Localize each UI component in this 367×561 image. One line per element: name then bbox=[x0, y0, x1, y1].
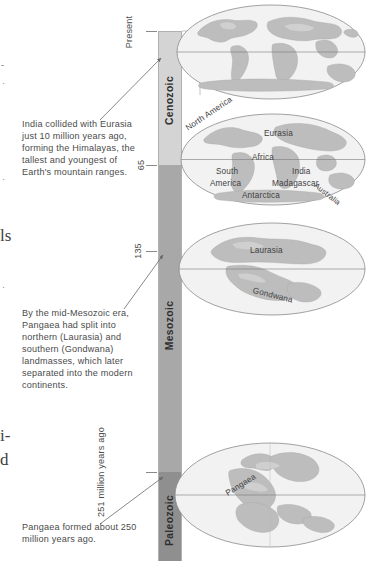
caption-pangaea: Pangaea formed about 250 million years a… bbox=[22, 521, 146, 545]
globe-present bbox=[176, 4, 366, 100]
leader-line-india bbox=[100, 58, 161, 120]
leader-line-pangaea bbox=[100, 477, 163, 524]
caption-india: India collided with Eurasia just 10 mill… bbox=[22, 118, 146, 178]
caption-mesozoic: By the mid-Mesozoic era, Pangaea had spl… bbox=[22, 307, 146, 391]
leader-line-mesozoic bbox=[124, 255, 163, 309]
globe-135ma: Laurasia Gondwana bbox=[178, 222, 366, 316]
globe-65ma: North America Eurasia Africa South Ameri… bbox=[180, 113, 366, 206]
continental-drift-figure: - · · ls · i- d Cenozoic Mesozoic Paleoz… bbox=[0, 0, 367, 561]
globe-251ma: Pangaea bbox=[174, 440, 366, 550]
